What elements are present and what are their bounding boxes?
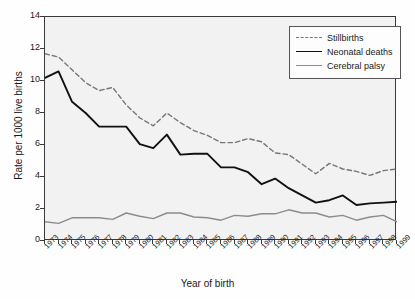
x-tick-mark: [261, 240, 262, 244]
x-tick-mark: [355, 240, 356, 244]
x-tick-mark: [220, 240, 221, 244]
x-tick-mark: [112, 240, 113, 244]
x-tick-mark: [342, 240, 343, 244]
legend-item[interactable]: Cerebral palsy: [296, 59, 393, 73]
legend-swatch-icon: [296, 61, 322, 71]
legend-label: Neonatal deaths: [327, 47, 393, 57]
y-tick-label: 6: [18, 139, 40, 148]
legend-swatch-icon: [296, 47, 322, 57]
x-tick-mark: [328, 240, 329, 244]
legend-item[interactable]: Stillbirths: [296, 31, 393, 45]
x-tick-mark: [369, 240, 370, 244]
series-line: [45, 210, 397, 224]
chart-legend: StillbirthsNeonatal deathsCerebral palsy: [289, 26, 401, 79]
y-tick-label: 8: [18, 107, 40, 116]
x-tick-mark: [44, 240, 45, 244]
legend-line-icon: [296, 37, 322, 38]
x-tick-mark: [288, 240, 289, 244]
y-tick-label: 14: [18, 11, 40, 20]
x-tick-mark: [247, 240, 248, 244]
legend-label: Stillbirths: [327, 33, 364, 43]
y-tick-label: 2: [18, 203, 40, 212]
y-tick-label: 12: [18, 43, 40, 52]
series-line: [45, 71, 397, 205]
x-tick-mark: [98, 240, 99, 244]
legend-label: Cerebral palsy: [327, 61, 385, 71]
x-tick-mark: [179, 240, 180, 244]
x-tick-mark: [71, 240, 72, 244]
x-tick-mark: [382, 240, 383, 244]
x-tick-mark: [301, 240, 302, 244]
x-tick-mark: [315, 240, 316, 244]
x-tick-mark: [234, 240, 235, 244]
x-tick-mark: [152, 240, 153, 244]
y-tick-label: 4: [18, 171, 40, 180]
x-tick-mark: [193, 240, 194, 244]
legend-item[interactable]: Neonatal deaths: [296, 45, 393, 59]
x-axis-title: Year of birth: [0, 278, 415, 289]
chart-figure: Rate per 1000 live births 02468101214 19…: [0, 0, 415, 299]
x-tick-mark: [85, 240, 86, 244]
y-tick-label: 10: [18, 75, 40, 84]
x-tick-mark: [396, 240, 397, 244]
x-tick-label: 1999: [395, 233, 412, 250]
x-tick-mark: [274, 240, 275, 244]
x-tick-mark: [206, 240, 207, 244]
legend-swatch-icon: [296, 33, 322, 43]
x-tick-mark: [139, 240, 140, 244]
legend-line-icon: [296, 65, 322, 66]
x-tick-mark: [125, 240, 126, 244]
x-tick-mark: [166, 240, 167, 244]
x-tick-mark: [58, 240, 59, 244]
legend-line-icon: [296, 51, 322, 52]
